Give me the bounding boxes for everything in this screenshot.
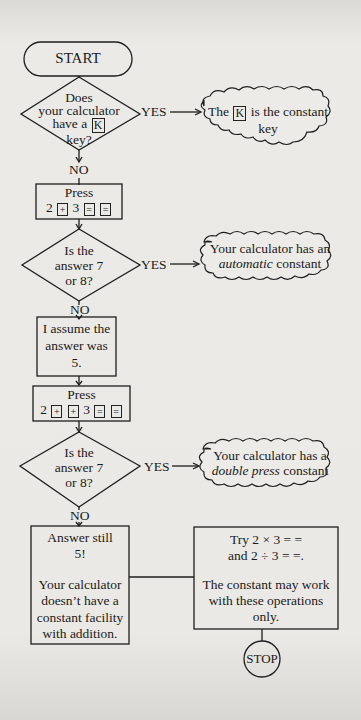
step2-text: I assume the answer was 5. <box>37 320 116 371</box>
key-sequence: 2 + + 3 = = <box>33 402 130 418</box>
decision3-yes-label: YES <box>144 459 170 475</box>
k-key-icon: K <box>233 106 246 121</box>
decision1-line: key? <box>29 133 129 146</box>
step3-text: Press 2 + + 3 = = <box>33 387 130 418</box>
final-try-text: Try 2 × 3 = = and 2 ÷ 3 = =. The constan… <box>194 532 338 625</box>
decision1-text: Does your calculator have a K key? <box>29 91 129 146</box>
plus-key-icon: + <box>57 203 68 216</box>
result1-text: The K is the constant key <box>202 104 334 136</box>
decision2-text: Is the answer 7 or 8? <box>34 243 124 288</box>
plus-key-icon: + <box>51 405 62 418</box>
final-no-text: Answer still 5! Your calculator doesn’t … <box>31 530 129 642</box>
stop-label: STOP <box>244 651 280 666</box>
equals-key-icon: = <box>84 203 95 216</box>
decision2-no-label: NO <box>70 302 90 318</box>
equals-key-icon: = <box>111 405 122 418</box>
equals-key-icon: = <box>94 405 105 418</box>
step1-text: Press 2 + 3 = = <box>36 185 122 216</box>
decision3-text: Is the answer 7 or 8? <box>34 445 124 490</box>
decision1-no-label: NO <box>69 162 89 178</box>
k-key-icon: K <box>92 118 105 133</box>
result2-text: Your calculator has an automatic constan… <box>200 241 340 271</box>
start-label: START <box>24 51 132 66</box>
plus-key-icon: + <box>68 405 79 418</box>
equals-key-icon: = <box>100 203 111 216</box>
decision1-yes-label: YES <box>141 104 167 120</box>
decision2-yes-label: YES <box>141 257 167 273</box>
key-sequence: 2 + 3 = = <box>36 200 122 216</box>
result3-text: Your calculator has a double press const… <box>200 448 340 478</box>
decision1-line: have a K <box>29 117 129 133</box>
decision3-no-label: NO <box>70 508 90 524</box>
